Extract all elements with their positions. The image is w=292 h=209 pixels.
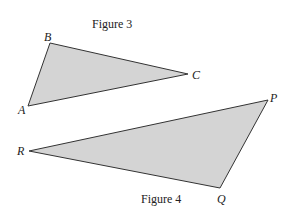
diagram: Figure 3 B A C P R Q Figure 4 bbox=[0, 0, 292, 209]
vertex-label-b: B bbox=[44, 31, 51, 43]
triangle-pqr bbox=[29, 100, 268, 188]
vertex-label-q: Q bbox=[217, 193, 226, 205]
figure-3-caption: Figure 3 bbox=[92, 18, 132, 30]
vertex-label-r: R bbox=[17, 145, 24, 157]
vertex-label-c: C bbox=[192, 69, 200, 81]
vertex-label-a: A bbox=[18, 104, 25, 116]
vertex-label-p: P bbox=[270, 92, 277, 104]
figure-4-caption: Figure 4 bbox=[141, 193, 181, 205]
triangle-abc bbox=[28, 43, 188, 106]
